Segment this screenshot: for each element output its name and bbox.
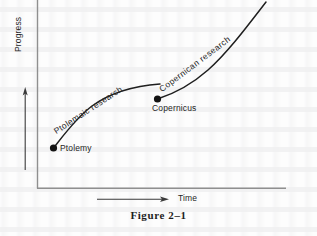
copernicus-point-label: Copernicus [152, 104, 197, 113]
arrow-up-icon [23, 87, 28, 170]
figure-drawing [0, 0, 317, 236]
figure-caption: Figure 2–1 [0, 209, 317, 221]
figure-container: Progress Time Ptolemy Copernicus Ptolema… [0, 0, 317, 236]
ptolemy-point-marker [50, 144, 57, 151]
y-axis-label: Progress [14, 17, 23, 52]
x-axis-label: Time [178, 194, 197, 203]
arrow-right-icon [97, 197, 169, 202]
copernicus-point-marker [154, 95, 161, 102]
ptolemy-point-label: Ptolemy [60, 144, 92, 153]
